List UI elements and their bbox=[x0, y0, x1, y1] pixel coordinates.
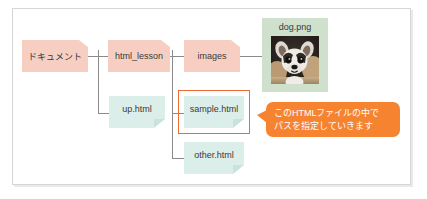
connector-branch-other-html bbox=[172, 158, 184, 159]
node-label: other.html bbox=[184, 150, 244, 160]
connector-trunk-html-lesson bbox=[98, 50, 99, 113]
callout-text: このHTMLファイルの中で パスを指定していきます bbox=[274, 107, 395, 133]
image-card-label: dog.png bbox=[262, 22, 328, 32]
node-label: up.html bbox=[109, 104, 165, 114]
callout-line-1: このHTMLファイルの中で bbox=[274, 107, 395, 120]
node-dog-png-image-card[interactable]: dog.png bbox=[262, 18, 328, 92]
callout-line-2: パスを指定していきます bbox=[274, 120, 395, 133]
path-instruction-callout: このHTMLファイルの中で パスを指定していきます bbox=[266, 102, 400, 137]
node-images-folder[interactable]: images bbox=[184, 40, 240, 72]
node-html-lesson-folder[interactable]: html_lesson bbox=[108, 40, 170, 72]
node-other-html-file[interactable]: other.html bbox=[184, 142, 244, 174]
callout-tail-icon bbox=[257, 110, 267, 123]
connector-branch-up-html bbox=[98, 113, 109, 114]
page-fold-icon bbox=[233, 165, 244, 174]
connector-trunk-images-level bbox=[172, 50, 173, 158]
folder-tab-icon bbox=[231, 40, 240, 47]
connector-tick-html-lesson-top bbox=[98, 50, 99, 56]
folder-tab-icon bbox=[79, 40, 88, 47]
chihuahua-photo bbox=[271, 36, 319, 84]
folder-tab-icon bbox=[161, 40, 170, 47]
node-documents-folder[interactable]: ドキュメント bbox=[22, 40, 88, 72]
sample-html-highlight-border bbox=[178, 90, 250, 134]
page-fold-icon bbox=[154, 119, 165, 128]
node-label: images bbox=[184, 51, 240, 61]
diagram-canvas: ドキュメント html_lesson images up.html sample… bbox=[0, 0, 427, 199]
node-label: ドキュメント bbox=[22, 50, 88, 63]
connector-images-to-dog bbox=[240, 56, 262, 57]
node-up-html-file[interactable]: up.html bbox=[109, 96, 165, 128]
node-label: html_lesson bbox=[108, 51, 170, 61]
